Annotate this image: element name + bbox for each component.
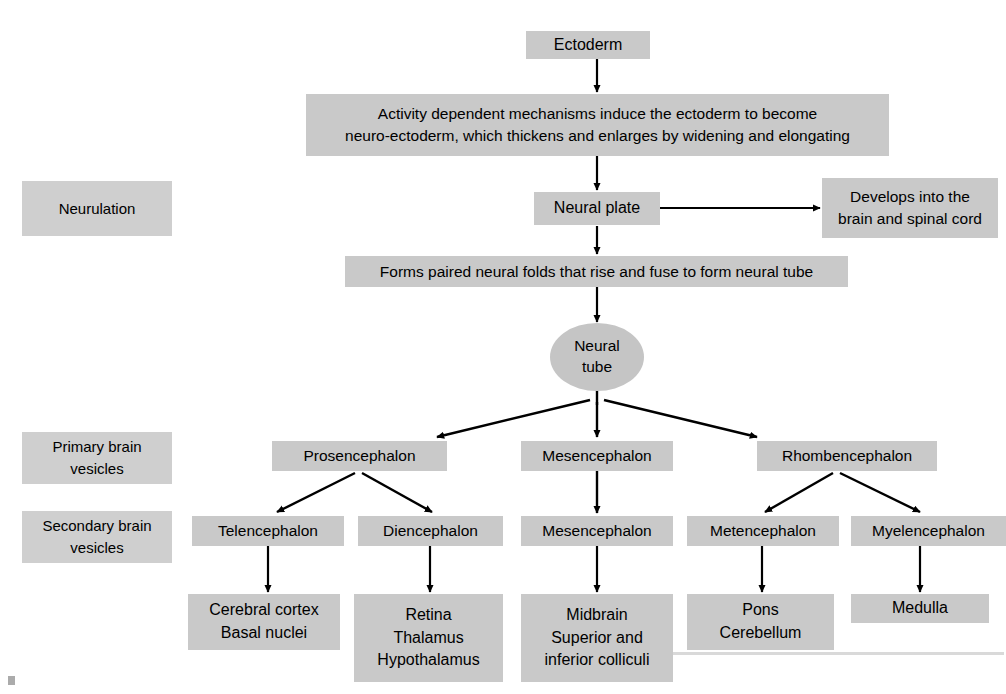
node-myelencephalon-line-0: Myelencephalon	[872, 520, 985, 542]
node-derivative-diencephalon: Retina Thalamus Hypothalamus	[354, 594, 503, 682]
node-derivative-telencephalon-line-1: Basal nuclei	[221, 622, 307, 645]
node-myelencephalon: Myelencephalon	[851, 516, 1006, 546]
node-derivative-telencephalon-line-0: Cerebral cortex	[209, 599, 318, 622]
node-diencephalon: Diencephalon	[358, 516, 503, 546]
edge-rhombencephalon-to-myelencephalon	[840, 473, 920, 512]
node-rhombencephalon-line-0: Rhombencephalon	[782, 445, 912, 467]
node-derivative-diencephalon-line-0: Retina	[405, 604, 451, 627]
node-derivative-mesencephalon-line-2: inferior colliculi	[545, 649, 650, 672]
node-derivative-metencephalon-line-0: Pons	[742, 599, 778, 622]
edge-prosencephalon-to-telencephalon	[277, 473, 355, 512]
node-activity-mechanisms: Activity dependent mechanisms induce the…	[306, 94, 889, 156]
edge-prosencephalon-to-diencephalon	[362, 473, 432, 512]
node-diencephalon-line-0: Diencephalon	[383, 520, 478, 542]
stage-label-secondary-line-0: Secondary brain	[42, 515, 151, 537]
edge-neural-tube-to-rhombencephalon	[604, 400, 757, 437]
stage-label-primary-line-0: Primary brain	[52, 436, 141, 458]
node-derivative-myelencephalon: Medulla	[851, 594, 989, 623]
node-activity-mechanisms-line-1: neuro-ectoderm, which thickens and enlar…	[345, 125, 850, 147]
stage-label-neurulation: Neurulation	[22, 181, 172, 236]
node-activity-mechanisms-line-0: Activity dependent mechanisms induce the…	[378, 103, 817, 125]
node-derivative-mesencephalon-line-1: Superior and	[551, 627, 643, 650]
flowchart-canvas: Neurulation Primary brain vesicles Secon…	[0, 0, 1006, 694]
node-neural-tube: Neural tube	[550, 323, 644, 391]
node-derivative-telencephalon: Cerebral cortex Basal nuclei	[188, 594, 340, 650]
scan-artifact-mark	[8, 676, 15, 685]
node-mesencephalon-primary: Mesencephalon	[521, 441, 673, 471]
node-derivative-myelencephalon-line-0: Medulla	[892, 597, 948, 620]
node-neural-tube-line-0: Neural	[574, 336, 620, 357]
node-neural-tube-line-1: tube	[582, 357, 612, 378]
node-develops-into: Develops into the brain and spinal cord	[822, 178, 998, 238]
node-neural-plate-line-0: Neural plate	[554, 197, 640, 220]
node-telencephalon-line-0: Telencephalon	[218, 520, 318, 542]
node-ectoderm-line-0: Ectoderm	[554, 34, 622, 57]
node-telencephalon: Telencephalon	[192, 516, 344, 546]
node-derivative-diencephalon-line-2: Hypothalamus	[377, 649, 479, 672]
node-derivative-mesencephalon: Midbrain Superior and inferior colliculi	[521, 594, 673, 682]
node-mesencephalon-primary-line-0: Mesencephalon	[542, 445, 651, 467]
node-prosencephalon-line-0: Prosencephalon	[303, 445, 415, 467]
node-neural-folds-line-0: Forms paired neural folds that rise and …	[380, 261, 813, 283]
stage-label-primary-line-1: vesicles	[70, 458, 123, 480]
node-prosencephalon: Prosencephalon	[272, 441, 447, 471]
edge-rhombencephalon-to-metencephalon	[765, 473, 833, 512]
node-derivative-metencephalon: Pons Cerebellum	[687, 594, 834, 650]
stage-label-primary-brain-vesicles: Primary brain vesicles	[22, 432, 172, 484]
edge-neural-tube-to-prosencephalon	[437, 400, 590, 437]
node-derivative-diencephalon-line-1: Thalamus	[393, 627, 463, 650]
node-neural-folds: Forms paired neural folds that rise and …	[345, 256, 848, 287]
node-metencephalon-line-0: Metencephalon	[710, 520, 816, 542]
node-develops-into-line-1: brain and spinal cord	[838, 208, 982, 230]
stage-label-secondary-line-1: vesicles	[70, 537, 123, 559]
node-neural-plate: Neural plate	[534, 192, 660, 225]
node-ectoderm: Ectoderm	[526, 31, 650, 59]
node-mesencephalon-secondary: Mesencephalon	[521, 516, 673, 546]
node-derivative-metencephalon-line-1: Cerebellum	[720, 622, 802, 645]
node-derivative-mesencephalon-line-0: Midbrain	[566, 604, 627, 627]
stage-label-secondary-brain-vesicles: Secondary brain vesicles	[22, 511, 172, 563]
node-rhombencephalon: Rhombencephalon	[757, 441, 937, 471]
node-mesencephalon-secondary-line-0: Mesencephalon	[542, 520, 651, 542]
node-develops-into-line-0: Develops into the	[850, 186, 970, 208]
stage-label-neurulation-line-0: Neurulation	[59, 198, 136, 220]
node-metencephalon: Metencephalon	[687, 516, 839, 546]
